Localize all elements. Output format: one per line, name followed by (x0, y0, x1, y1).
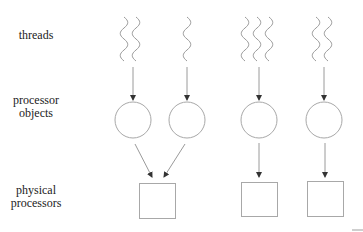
processor-object-2 (169, 102, 205, 138)
thread-icon (253, 17, 261, 61)
thread-icon (324, 17, 332, 61)
diagram-graphics (0, 0, 363, 232)
thread-icon (183, 17, 191, 61)
processor-object-4 (306, 102, 342, 138)
physical-processor-2 (242, 183, 278, 217)
processor-object-1 (115, 102, 151, 138)
thread-icon (265, 17, 273, 61)
thread-icon (132, 17, 140, 61)
thread-group-1 (120, 17, 140, 61)
physical-processors (140, 182, 344, 219)
processor-object-3 (241, 102, 277, 138)
thread-group-4 (312, 17, 332, 61)
thread-group-2 (183, 17, 191, 61)
thread-icon (241, 17, 249, 61)
arrow-icon (135, 144, 152, 177)
thread-mapping-diagram: threads processor objects physical proce… (0, 0, 363, 232)
processor-objects (115, 102, 342, 138)
physical-processor-3 (308, 182, 344, 217)
physical-processor-1 (140, 184, 176, 219)
thread-icon (312, 17, 320, 61)
thread-group-3 (241, 17, 273, 61)
edge-artifact (352, 229, 363, 231)
arrow-icon (164, 144, 185, 177)
thread-icon (120, 17, 128, 61)
thread-to-object-arrows (133, 67, 324, 100)
object-to-processor-arrows (135, 143, 325, 177)
